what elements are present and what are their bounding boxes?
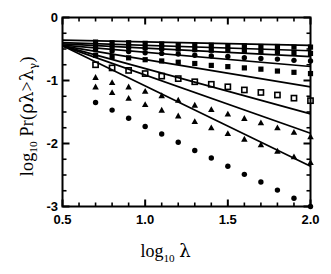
data-series-layer — [63, 39, 314, 209]
figure-root: log10 Pr(ρλ>λγ) log10 λ 0-1-2-30.51.01.5… — [0, 0, 331, 274]
x-tick-label: 1.5 — [208, 212, 248, 227]
x-tick-label: 2.0 — [291, 212, 331, 227]
y-tick-label: 0 — [30, 10, 58, 25]
y-tick-label: -2 — [30, 136, 58, 151]
x-tick-label: 0.5 — [43, 212, 83, 227]
y-tick-label: -1 — [30, 73, 58, 88]
x-tick-label: 1.0 — [125, 212, 165, 227]
